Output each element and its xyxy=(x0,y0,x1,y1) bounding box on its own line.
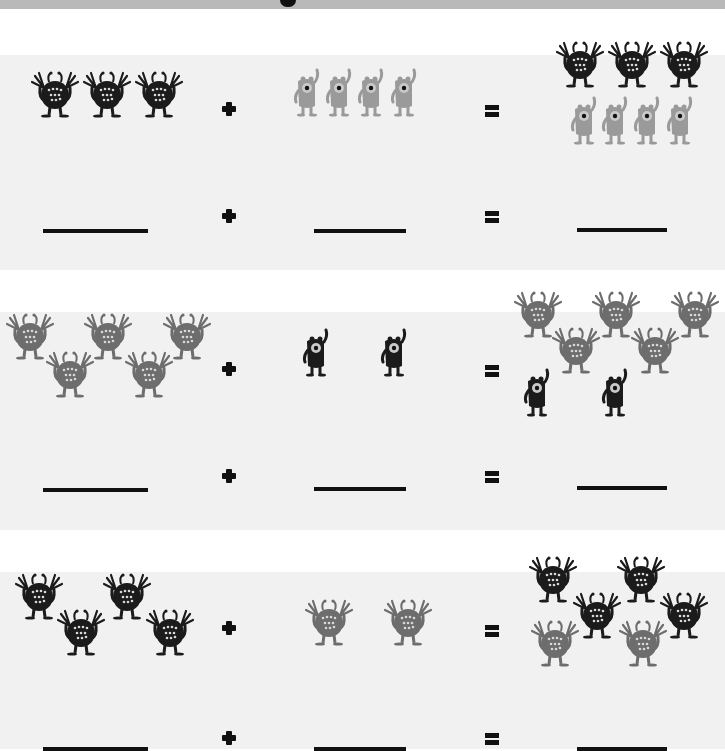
black-fuzzy-monster-icon xyxy=(134,70,184,120)
equals-sign-icon xyxy=(485,364,499,378)
gray-fuzzy-monster-icon xyxy=(618,619,668,669)
one-eyed-monster-icon xyxy=(302,328,332,378)
answer-blank-result[interactable] xyxy=(577,486,667,490)
one-eyed-monster-icon xyxy=(380,328,410,378)
gray-fuzzy-monster-icon xyxy=(551,326,601,376)
answer-blank-left[interactable] xyxy=(43,488,148,492)
answer-blank-left[interactable] xyxy=(43,747,148,751)
gray-fuzzy-monster-icon xyxy=(630,326,680,376)
one-eyed-monster-icon xyxy=(293,68,323,118)
answer-blank-result[interactable] xyxy=(577,747,667,751)
plus-sign-icon xyxy=(222,469,236,483)
gray-fuzzy-monster-icon xyxy=(383,598,433,648)
plus-sign-icon xyxy=(222,209,236,223)
equals-sign-icon xyxy=(485,104,499,118)
gray-fuzzy-monster-icon xyxy=(45,350,95,400)
equals-sign-icon xyxy=(485,210,499,224)
answer-blank-left[interactable] xyxy=(43,229,148,233)
black-fuzzy-monster-icon xyxy=(659,40,709,90)
one-eyed-monster-icon xyxy=(357,68,387,118)
black-fuzzy-monster-icon xyxy=(56,608,106,658)
black-fuzzy-monster-icon xyxy=(30,70,80,120)
answer-blank-right[interactable] xyxy=(314,487,406,491)
one-eyed-monster-icon xyxy=(666,96,696,146)
title-glyph-fragment xyxy=(280,0,296,7)
one-eyed-monster-icon xyxy=(601,96,631,146)
one-eyed-monster-icon xyxy=(633,96,663,146)
one-eyed-monster-icon xyxy=(523,368,553,418)
header-bar xyxy=(0,0,725,9)
black-fuzzy-monster-icon xyxy=(145,608,195,658)
black-fuzzy-monster-icon xyxy=(607,40,657,90)
gray-fuzzy-monster-icon xyxy=(304,598,354,648)
one-eyed-monster-icon xyxy=(570,96,600,146)
one-eyed-monster-icon xyxy=(325,68,355,118)
equals-sign-icon xyxy=(485,624,499,638)
one-eyed-monster-icon xyxy=(390,68,420,118)
plus-sign-icon xyxy=(222,731,236,745)
one-eyed-monster-icon xyxy=(601,368,631,418)
plus-sign-icon xyxy=(222,621,236,635)
equals-sign-icon xyxy=(485,732,499,746)
answer-blank-right[interactable] xyxy=(314,747,406,751)
gray-fuzzy-monster-icon xyxy=(124,350,174,400)
gray-fuzzy-monster-icon xyxy=(530,619,580,669)
answer-blank-right[interactable] xyxy=(314,229,406,233)
plus-sign-icon xyxy=(222,362,236,376)
answer-blank-result[interactable] xyxy=(577,228,667,232)
black-fuzzy-monster-icon xyxy=(528,555,578,605)
plus-sign-icon xyxy=(222,102,236,116)
black-fuzzy-monster-icon xyxy=(82,70,132,120)
black-fuzzy-monster-icon xyxy=(555,40,605,90)
equals-sign-icon xyxy=(485,470,499,484)
